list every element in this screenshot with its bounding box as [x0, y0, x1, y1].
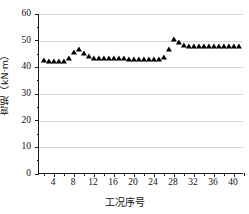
y-tick-major [35, 67, 39, 68]
data-point [161, 55, 167, 60]
chart-figure: 0102030405060 481216202428323640 弯矩（kN·m… [0, 0, 249, 214]
x-tick-minor [184, 173, 185, 176]
x-tick-minor [84, 173, 85, 176]
y-tick-label: 30 [22, 89, 32, 99]
y-tick-major [35, 14, 39, 15]
x-tick-minor [124, 173, 125, 176]
y-tick-label: 10 [22, 142, 32, 152]
x-tick-minor [164, 173, 165, 176]
y-axis-title: 弯矩（kN·m） [0, 50, 14, 115]
x-tick-minor [144, 173, 145, 176]
y-tick-label: 40 [22, 62, 32, 72]
x-tick-label: 40 [221, 178, 245, 188]
data-series-bending-moment [39, 14, 243, 173]
y-tick-minor [37, 107, 40, 108]
x-tick-minor [44, 173, 45, 176]
y-tick-major [35, 120, 39, 121]
y-tick-label: 0 [26, 169, 31, 179]
data-point [166, 47, 172, 52]
y-tick-minor [37, 160, 40, 161]
data-point [66, 55, 72, 60]
x-tick-minor [204, 173, 205, 176]
y-tick-label: 20 [22, 116, 32, 126]
x-tick-minor [244, 173, 245, 176]
y-tick-minor [37, 54, 40, 55]
y-tick-label: 60 [22, 9, 32, 19]
y-tick-major [35, 94, 39, 95]
y-tick-major [35, 174, 39, 175]
data-point [236, 44, 242, 49]
x-tick-minor [104, 173, 105, 176]
plot-area [38, 14, 243, 174]
y-tick-minor [37, 80, 40, 81]
y-tick-label: 50 [22, 36, 32, 46]
y-tick-minor [37, 27, 40, 28]
x-tick-minor [64, 173, 65, 176]
x-axis-title: 工况序号 [0, 194, 249, 209]
y-tick-minor [37, 134, 40, 135]
y-tick-major [35, 147, 39, 148]
x-tick-minor [224, 173, 225, 176]
y-tick-major [35, 40, 39, 41]
